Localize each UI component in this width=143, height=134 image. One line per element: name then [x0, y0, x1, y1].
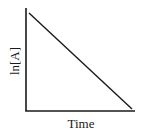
- chart: Time ln[A]: [0, 0, 143, 134]
- x-axis-label: Time: [68, 116, 95, 131]
- y-axis-label: ln[A]: [7, 47, 22, 75]
- data-line: [29, 13, 132, 109]
